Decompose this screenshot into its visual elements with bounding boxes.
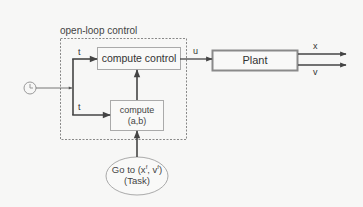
u-label: u bbox=[193, 47, 198, 56]
compute-ab-line1: compute bbox=[120, 105, 155, 115]
open-loop-title: open-loop control bbox=[60, 26, 137, 36]
x-label: x bbox=[313, 42, 318, 51]
plant-label: Plant bbox=[213, 51, 297, 70]
task-label: Go to (xf, vf) (Task) bbox=[106, 158, 168, 194]
clock-icon bbox=[24, 82, 36, 94]
t-bottom-label: t bbox=[78, 103, 81, 112]
compute-ab-line2: (a,b) bbox=[128, 116, 147, 126]
compute-control-label: compute control bbox=[98, 48, 180, 69]
compute-ab-label: compute (a,b) bbox=[111, 101, 163, 130]
t-top-label: t bbox=[78, 48, 81, 57]
v-label: v bbox=[313, 68, 318, 77]
task-type-text: (Task) bbox=[124, 176, 150, 187]
diagram-canvas bbox=[0, 0, 363, 207]
